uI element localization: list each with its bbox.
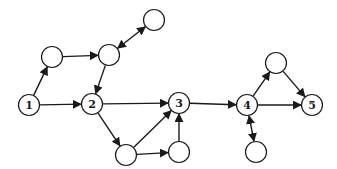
edge-c-to-b-bidirectional-arrow: [118, 27, 146, 48]
node-circle: [266, 53, 287, 74]
node-label: 2: [88, 98, 96, 111]
graph-node-a: [42, 47, 63, 68]
graph-node-2: 2: [82, 94, 103, 115]
edge-f-to-n5-arrow: [283, 71, 305, 96]
graph-node-d: [116, 145, 137, 166]
edge-n2-to-d-arrow: [98, 113, 120, 146]
node-circle: [144, 10, 165, 31]
nodes-layer: 12345: [19, 10, 323, 166]
node-circle: [116, 145, 137, 166]
graph-node-e: [169, 142, 190, 163]
graph-svg: 12345: [0, 0, 337, 169]
node-label: 5: [308, 99, 316, 112]
graph-diagram: 12345: [0, 0, 337, 169]
graph-node-4: 4: [237, 95, 258, 116]
edge-n1-to-n2-arrow: [40, 104, 81, 105]
node-circle: [169, 142, 190, 163]
edge-n4-to-f-arrow: [253, 72, 269, 96]
node-label: 3: [175, 97, 183, 110]
edge-n2-to-n3-arrow: [103, 103, 168, 104]
graph-node-c: [144, 10, 165, 31]
edge-d-to-n3-arrow: [134, 111, 171, 148]
edge-a-to-b-arrow: [63, 55, 98, 56]
node-circle: [246, 142, 267, 163]
edge-n3-to-n4-arrow: [190, 103, 236, 104]
graph-node-f: [266, 53, 287, 74]
graph-node-b: [99, 45, 120, 66]
graph-node-1: 1: [19, 95, 40, 116]
node-label: 4: [243, 99, 251, 112]
edge-n1-to-a-arrow: [34, 67, 47, 95]
graph-node-5: 5: [302, 95, 323, 116]
graph-node-3: 3: [169, 93, 190, 114]
edge-n4-to-g-bidirectional-arrow: [249, 116, 254, 141]
node-circle: [99, 45, 120, 66]
edges-layer: [34, 27, 305, 155]
node-label: 1: [25, 99, 33, 112]
edge-b-to-n2-arrow: [96, 65, 106, 93]
node-circle: [42, 47, 63, 68]
graph-node-g: [246, 142, 267, 163]
edge-d-to-e-arrow: [137, 153, 168, 155]
